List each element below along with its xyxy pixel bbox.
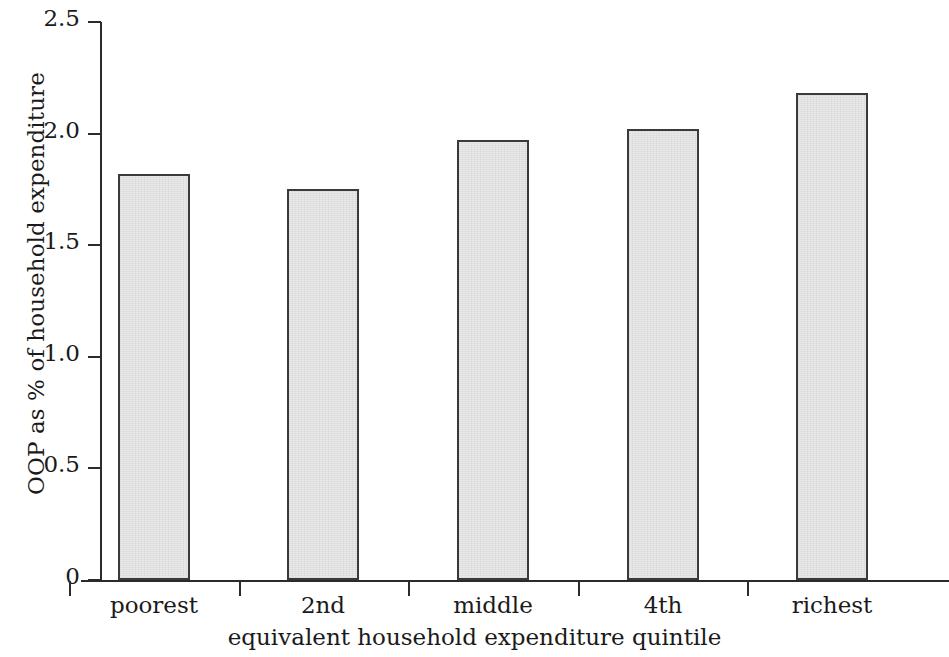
y-tick-mark <box>88 467 101 469</box>
x-tick-label-poorest: poorest <box>69 592 239 618</box>
y-tick-mark <box>88 244 101 246</box>
x-tick-label-4th: 4th <box>578 592 748 618</box>
y-tick-label: 0.5 <box>10 453 80 476</box>
y-tick-mark <box>88 356 101 358</box>
x-tick-label-2nd: 2nd <box>238 592 408 618</box>
y-tick-label: 2.5 <box>10 7 80 30</box>
y-tick-label: 1.0 <box>10 342 80 365</box>
y-tick-mark <box>88 21 101 23</box>
y-tick-label: 1.5 <box>10 230 80 253</box>
bar-richest <box>796 93 868 580</box>
y-tick-label: 2.0 <box>10 119 80 142</box>
x-tick-label-middle: middle <box>408 592 578 618</box>
x-axis-title: equivalent household expenditure quintil… <box>0 624 949 650</box>
x-axis-line <box>81 580 949 582</box>
bar-chart: OOP as % of household expenditure 2.52.0… <box>0 0 949 657</box>
bar-2nd <box>287 189 359 580</box>
bar-4th <box>627 129 699 580</box>
bar-middle <box>457 140 529 580</box>
x-tick-label-richest: richest <box>747 592 917 618</box>
y-axis-line <box>100 22 102 581</box>
bar-poorest <box>118 174 190 580</box>
y-tick-mark <box>88 133 101 135</box>
